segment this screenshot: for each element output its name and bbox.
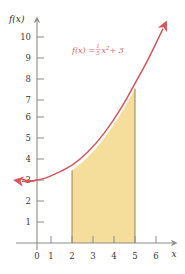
y-axis-title: f(x) [8, 14, 25, 24]
equation-tail: + 3 [110, 46, 124, 55]
y-tick-label-2: 2 [26, 196, 31, 206]
y-tick-label-7: 7 [26, 95, 31, 105]
y-tick-label-1: 1 [26, 217, 31, 227]
x-tick-label-0: 0 [34, 251, 39, 261]
y-tick-label-5: 5 [26, 133, 31, 143]
y-axis-ticks [37, 37, 44, 222]
y-tick-label-10: 10 [20, 32, 31, 42]
y-tick-label-9: 9 [26, 53, 31, 63]
x-tick-label-2: 2 [69, 251, 74, 261]
y-tick-label-4: 4 [26, 154, 31, 164]
x-tick-label-5: 5 [132, 251, 137, 261]
x-tick-label-6: 6 [153, 251, 158, 261]
equation-annotation: f(x) = 1 5 x 2 + 3 [71, 43, 124, 56]
x-axis-title: x [171, 249, 176, 259]
svg-text:f(x) =: f(x) = [71, 46, 95, 55]
shaded-area-region [72, 89, 135, 243]
equation-numerator: 1 [96, 43, 100, 49]
x-tick-label-3: 3 [90, 251, 95, 261]
y-tick-label-6: 6 [26, 112, 31, 122]
x-tick-label-4: 4 [111, 251, 116, 261]
function-plot: 1 2 3 4 5 6 7 8 9 10 0 1 2 3 4 5 6 f(x) … [0, 0, 185, 274]
equation-prefix: f(x) = [71, 46, 95, 55]
x-tick-label-1: 1 [48, 251, 53, 261]
equation-denominator: 5 [96, 50, 100, 56]
y-tick-label-8: 8 [26, 74, 31, 84]
